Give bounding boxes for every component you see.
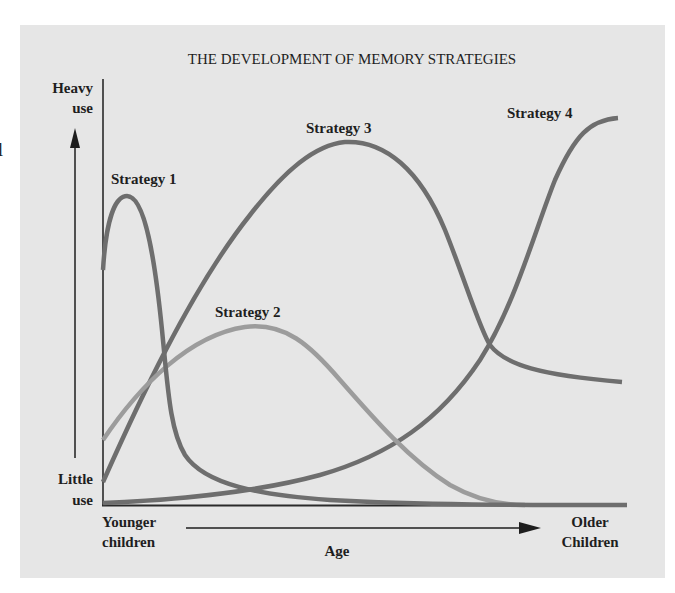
memory-strategies-chart: THE DEVELOPMENT OF MEMORY STRATEGIES Hea…	[0, 0, 675, 593]
y-label-heavy: Heavy	[52, 80, 93, 96]
x-label-older-children: Children	[561, 534, 619, 550]
x-label-younger: Younger	[102, 514, 157, 530]
y-label-little-use: use	[72, 492, 93, 508]
y-label-little: Little	[58, 471, 93, 487]
x-label-older: Older	[571, 514, 609, 530]
label-strategy-1: Strategy 1	[111, 171, 176, 187]
series-strategy-3	[103, 142, 622, 482]
x-arrow-head-icon	[519, 522, 541, 534]
x-label-younger-children: children	[102, 534, 156, 550]
label-strategy-4: Strategy 4	[507, 105, 573, 121]
y-arrow-head-icon	[70, 128, 80, 148]
label-strategy-3: Strategy 3	[306, 120, 371, 136]
x-axis-title-age: Age	[325, 543, 350, 559]
label-strategy-2: Strategy 2	[215, 304, 280, 320]
chart-title: THE DEVELOPMENT OF MEMORY STRATEGIES	[188, 51, 516, 67]
y-label-heavy-use: use	[72, 100, 93, 116]
